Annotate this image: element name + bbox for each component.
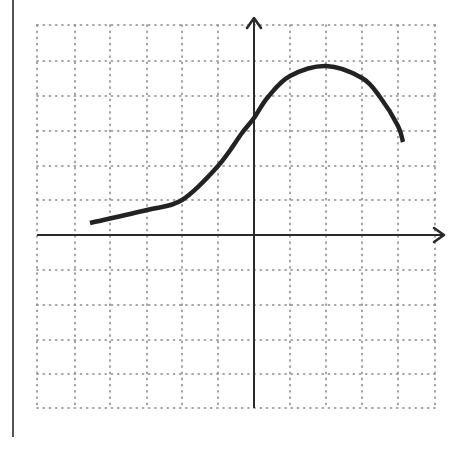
function-graph [0, 0, 462, 451]
dotted-grid [37, 25, 435, 408]
